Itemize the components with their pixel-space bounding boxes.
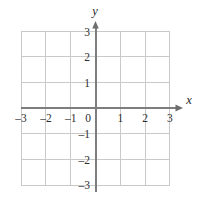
y-tick-label-pos1: 1 xyxy=(84,77,90,89)
x-axis xyxy=(21,105,183,112)
y-tick-label-pos2: 2 xyxy=(84,51,90,63)
x-axis-arrowhead xyxy=(176,105,184,112)
y-axis xyxy=(92,21,99,192)
x-axis-label: x xyxy=(185,93,192,107)
y-axis-arrowhead xyxy=(92,21,99,29)
y-tick-label-pos3: 3 xyxy=(84,26,90,38)
x-tick-label-neg3: –3 xyxy=(14,112,27,124)
y-axis-label: y xyxy=(90,4,98,18)
x-tick-label-pos2: 2 xyxy=(142,112,148,124)
x-tick-label-pos3: 3 xyxy=(167,112,173,124)
coordinate-grid-svg: –3 –2 –1 0 1 2 3 3 2 1 –1 –2 –3 x y xyxy=(0,0,197,205)
x-tick-label-neg2: –2 xyxy=(39,112,52,124)
coordinate-plane-figure: –3 –2 –1 0 1 2 3 3 2 1 –1 –2 –3 x y xyxy=(0,0,197,205)
origin-label: 0 xyxy=(85,112,91,124)
x-tick-label-neg1: –1 xyxy=(64,112,77,124)
x-tick-label-pos1: 1 xyxy=(117,112,123,124)
y-tick-label-neg2: –2 xyxy=(78,154,91,166)
y-tick-label-neg1: –1 xyxy=(78,128,91,140)
y-tick-label-neg3: –3 xyxy=(78,179,91,191)
